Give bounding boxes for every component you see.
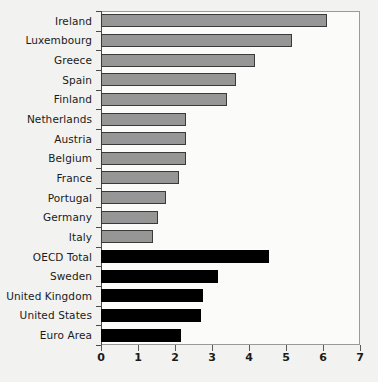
y-axis-label-text: United Kingdom xyxy=(6,290,92,302)
bar-row xyxy=(101,227,360,247)
y-axis-label-text: Portugal xyxy=(48,192,92,204)
bar-row xyxy=(101,306,360,326)
y-axis-label-text: Finland xyxy=(54,93,92,105)
bar-row xyxy=(101,109,360,129)
y-axis-label-text: OECD Total xyxy=(33,251,92,263)
y-axis-label-netherlands: Netherlands xyxy=(0,109,96,129)
y-axis-label-text: Germany xyxy=(43,211,92,223)
y-axis-label-text: Greece xyxy=(54,54,92,66)
bar-row xyxy=(101,90,360,110)
bar xyxy=(101,289,203,302)
x-axis-tick-labels: 01234567 xyxy=(101,351,360,369)
bar xyxy=(101,270,218,283)
x-axis-tick-label: 2 xyxy=(171,351,179,364)
y-axis-label-text: United States xyxy=(20,309,92,321)
x-axis-tick-label: 4 xyxy=(245,351,253,364)
y-axis-label-luxembourg: Luxembourg xyxy=(0,31,96,51)
bar xyxy=(101,171,179,184)
y-axis-label-text: Italy xyxy=(69,231,92,243)
bar xyxy=(101,73,236,86)
bar-row xyxy=(101,148,360,168)
y-axis-label-euro-area: Euro Area xyxy=(0,325,96,345)
bar xyxy=(101,14,327,27)
y-axis-label-greece: Greece xyxy=(0,50,96,70)
y-axis-label-united-kingdom: United Kingdom xyxy=(0,286,96,306)
y-axis-label-portugal: Portugal xyxy=(0,188,96,208)
bar xyxy=(101,230,153,243)
y-axis-label-text: Austria xyxy=(54,133,92,145)
y-axis-label-finland: Finland xyxy=(0,90,96,110)
bar-row xyxy=(101,188,360,208)
bar xyxy=(101,113,186,126)
bar-row xyxy=(101,129,360,149)
bar xyxy=(101,309,201,322)
y-axis-label-austria: Austria xyxy=(0,129,96,149)
x-axis-tick-label: 1 xyxy=(134,351,142,364)
bar-row xyxy=(101,266,360,286)
y-axis-label-text: Spain xyxy=(62,74,92,86)
bar-row xyxy=(101,50,360,70)
bar-row xyxy=(101,168,360,188)
x-axis-tick-label: 6 xyxy=(319,351,327,364)
x-axis-tick-label: 0 xyxy=(97,351,105,364)
y-axis-label-text: France xyxy=(56,172,92,184)
y-axis-label-text: Sweden xyxy=(50,270,92,282)
y-axis-label-oecd-total: OECD Total xyxy=(0,247,96,267)
y-axis-label-france: France xyxy=(0,168,96,188)
bar-row xyxy=(101,11,360,31)
bar xyxy=(101,329,181,342)
bar xyxy=(101,152,186,165)
y-axis-label-belgium: Belgium xyxy=(0,148,96,168)
bar-row xyxy=(101,247,360,267)
bar xyxy=(101,34,292,47)
bars-layer xyxy=(101,11,360,345)
bar-row xyxy=(101,207,360,227)
bar xyxy=(101,250,269,263)
y-axis-label-ireland: Ireland xyxy=(0,11,96,31)
y-axis-label-text: Luxembourg xyxy=(26,34,92,46)
y-axis-label-text: Belgium xyxy=(48,152,92,164)
bar-chart: IrelandLuxembourgGreeceSpainFinlandNethe… xyxy=(0,0,378,382)
bar-row xyxy=(101,325,360,345)
x-axis-tick-label: 3 xyxy=(208,351,216,364)
x-axis-tick-label: 7 xyxy=(356,351,364,364)
y-axis-label-text: Euro Area xyxy=(40,329,92,341)
y-axis-label-text: Netherlands xyxy=(27,113,92,125)
bar xyxy=(101,93,227,106)
bar xyxy=(101,211,158,224)
y-axis-label-united-states: United States xyxy=(0,306,96,326)
bar xyxy=(101,132,186,145)
bar-row xyxy=(101,70,360,90)
y-axis-label-spain: Spain xyxy=(0,70,96,90)
y-axis-label-sweden: Sweden xyxy=(0,266,96,286)
y-axis-label-text: Ireland xyxy=(55,15,92,27)
bar xyxy=(101,54,255,67)
y-axis-label-italy: Italy xyxy=(0,227,96,247)
bar-row xyxy=(101,31,360,51)
bar xyxy=(101,191,166,204)
y-axis-label-germany: Germany xyxy=(0,207,96,227)
bar-row xyxy=(101,286,360,306)
y-axis-category-labels: IrelandLuxembourgGreeceSpainFinlandNethe… xyxy=(0,11,96,345)
x-axis-tick-label: 5 xyxy=(282,351,290,364)
